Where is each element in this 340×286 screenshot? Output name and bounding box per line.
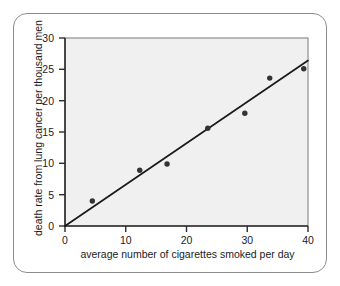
data-point: [242, 111, 247, 116]
x-tick-label-0: 0: [55, 235, 75, 246]
y-axis-ticks: [59, 38, 65, 226]
data-point: [137, 168, 142, 173]
data-point: [301, 66, 306, 71]
data-point: [267, 75, 272, 80]
x-axis-ticks: [65, 226, 308, 232]
data-point: [164, 161, 169, 166]
x-tick-label-40: 40: [298, 235, 318, 246]
x-tick-label-30: 30: [237, 235, 257, 246]
plot-area-background: [65, 38, 308, 226]
data-point: [90, 198, 95, 203]
data-point: [205, 126, 210, 131]
x-axis-title: average number of cigarettes smoked per …: [60, 248, 315, 260]
y-axis-title: death rate from lung cancer per thousand…: [32, 36, 44, 236]
x-tick-label-20: 20: [177, 235, 197, 246]
scatter-chart: 0 5 10 15 20 25 30 0 10 20 30 40 average…: [0, 0, 340, 286]
x-tick-label-10: 10: [116, 235, 136, 246]
